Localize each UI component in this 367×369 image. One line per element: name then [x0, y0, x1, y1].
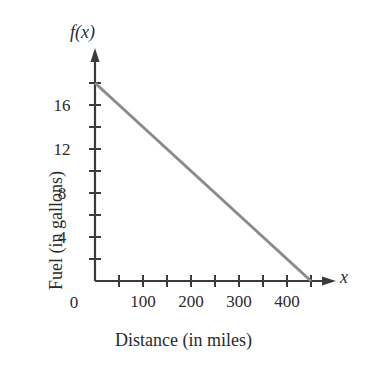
origin-tick-label: 0 — [64, 293, 84, 313]
x-axis-arrowhead — [322, 277, 336, 286]
fuel-distance-chart: 16 12 8 4 100 200 300 400 0 f(x) x Fuel … — [0, 0, 367, 369]
y-axis-function-name: f(x) — [70, 22, 95, 43]
y-axis-arrowhead — [91, 48, 100, 62]
fuel-line-series — [95, 83, 311, 281]
y-axis-title: Fuel (in gallons) — [46, 30, 67, 290]
x-tick-label-400: 400 — [267, 293, 307, 310]
x-tick-label-100: 100 — [123, 293, 163, 310]
x-tick-label-200: 200 — [171, 293, 211, 310]
x-tick-label-300: 300 — [219, 293, 259, 310]
x-axis-variable-name: x — [340, 267, 348, 288]
x-axis-title: Distance (in miles) — [0, 330, 367, 351]
